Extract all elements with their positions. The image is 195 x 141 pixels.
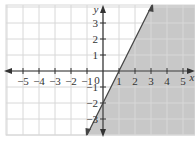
- y-tick-label: 3: [93, 17, 99, 29]
- y-axis-label: y: [93, 3, 99, 15]
- x-tick-label: 3: [148, 75, 154, 87]
- x-tick-label: −2: [65, 75, 77, 87]
- y-tick-label: 1: [93, 49, 99, 61]
- y-tick-label: 2: [93, 33, 99, 45]
- x-tick-label: 5: [180, 75, 186, 87]
- x-axis-left-arrow-icon: [4, 68, 12, 74]
- x-tick-label: 1: [116, 75, 122, 87]
- x-tick-label: −5: [17, 75, 29, 87]
- inequality-graph: −5−4−3−2−112345321−1−2−30yx: [0, 0, 195, 141]
- y-axis-up-arrow-icon: [100, 5, 106, 13]
- x-axis-label: x: [189, 71, 195, 83]
- y-tick-label: −3: [86, 113, 98, 125]
- x-tick-label: 4: [164, 75, 170, 87]
- origin-label: 0: [94, 74, 100, 86]
- x-tick-label: −3: [49, 75, 61, 87]
- x-tick-label: −4: [33, 75, 45, 87]
- y-tick-label: −2: [86, 97, 98, 109]
- x-tick-label: 2: [132, 75, 138, 87]
